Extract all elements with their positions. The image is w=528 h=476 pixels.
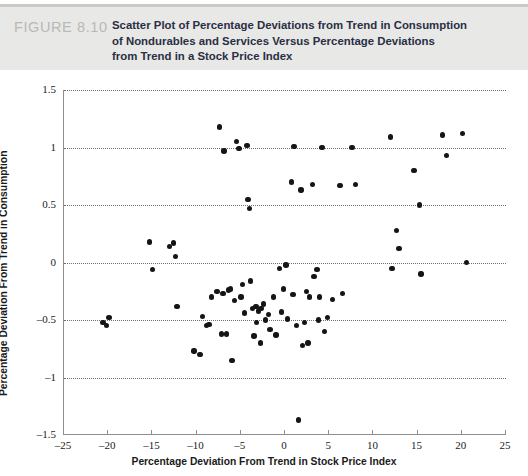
scatter-point xyxy=(340,291,345,296)
scatter-point xyxy=(261,301,266,306)
x-tick-label: 10 xyxy=(357,439,387,451)
x-tick-label: –20 xyxy=(92,439,122,451)
scatter-point xyxy=(236,146,241,151)
scatter-point xyxy=(258,340,263,345)
scatter-point xyxy=(305,340,310,345)
x-tick-mark xyxy=(505,430,506,435)
scatter-point xyxy=(337,183,342,188)
x-axis-title: Percentage Deviation From Trend in Stock… xyxy=(0,456,528,467)
gridline-y xyxy=(64,148,506,149)
y-tick-label: –0.5 xyxy=(0,313,56,325)
scatter-point xyxy=(150,267,155,272)
scatter-point xyxy=(349,145,354,150)
gridline-y xyxy=(64,205,506,206)
scatter-point xyxy=(191,348,196,353)
x-tick-mark xyxy=(372,430,373,435)
y-tick-label: 1 xyxy=(0,141,56,153)
x-tick-label: 15 xyxy=(402,439,432,451)
scatter-point xyxy=(464,260,469,265)
y-tick-label: 1.5 xyxy=(0,83,56,95)
x-tick-mark xyxy=(284,430,285,435)
x-tick-mark xyxy=(240,430,241,435)
scatter-point xyxy=(271,294,276,299)
x-tick-label: 0 xyxy=(269,439,299,451)
scatter-point xyxy=(281,286,286,291)
scatter-point xyxy=(232,298,237,303)
scatter-point xyxy=(296,417,301,422)
scatter-point xyxy=(104,323,109,328)
y-axis-title: Percentage Deviation From Trend in Consu… xyxy=(0,151,9,396)
scatter-point xyxy=(307,294,312,299)
scatter-point xyxy=(394,228,399,233)
scatter-point xyxy=(277,266,282,271)
scatter-point xyxy=(302,320,307,325)
scatter-point xyxy=(411,168,416,173)
scatter-point xyxy=(258,306,263,311)
scatter-chart: Percentage Deviation From Trend in Consu… xyxy=(0,74,528,476)
scatter-point xyxy=(267,327,272,332)
scatter-point xyxy=(220,291,225,296)
scatter-point xyxy=(353,182,358,187)
scatter-point xyxy=(319,145,324,150)
plot-frame xyxy=(63,90,505,435)
figure-caption-line-3: from Trend in a Stock Price Index xyxy=(112,49,517,65)
scatter-point xyxy=(266,312,271,317)
scatter-point xyxy=(224,331,229,336)
scatter-point xyxy=(389,266,394,271)
scatter-point xyxy=(273,332,278,337)
figure-header-band: FIGURE 8.10 Scatter Plot of Percentage D… xyxy=(0,4,528,70)
scatter-point xyxy=(314,267,319,272)
scatter-point xyxy=(217,124,222,129)
y-tick-label: 0 xyxy=(0,256,56,268)
scatter-point xyxy=(283,262,288,267)
scatter-point xyxy=(289,179,294,184)
scatter-point xyxy=(304,289,309,294)
scatter-point xyxy=(244,143,249,148)
scatter-point xyxy=(238,294,243,299)
x-tick-mark xyxy=(63,430,64,435)
scatter-point xyxy=(173,254,178,259)
scatter-point xyxy=(254,320,259,325)
x-tick-mark xyxy=(417,430,418,435)
figure-number-label: FIGURE 8.10 xyxy=(14,19,108,35)
scatter-point xyxy=(417,202,422,207)
scatter-point xyxy=(316,317,321,322)
figure-caption: Scatter Plot of Percentage Deviations fr… xyxy=(112,18,517,65)
scatter-point xyxy=(147,239,152,244)
scatter-point xyxy=(294,323,299,328)
scatter-point xyxy=(214,289,219,294)
x-tick-label: –25 xyxy=(48,439,78,451)
scatter-point xyxy=(247,206,252,211)
scatter-point xyxy=(388,134,393,139)
scatter-point xyxy=(242,310,247,315)
scatter-point xyxy=(290,292,295,297)
scatter-point xyxy=(396,246,401,251)
x-tick-label: 20 xyxy=(446,439,476,451)
scatter-point xyxy=(240,282,245,287)
scatter-point xyxy=(444,153,449,158)
x-tick-mark xyxy=(151,430,152,435)
x-tick-label: –15 xyxy=(136,439,166,451)
scatter-point xyxy=(330,297,335,302)
scatter-point xyxy=(317,294,322,299)
scatter-point xyxy=(234,139,239,144)
figure-caption-line-1: Scatter Plot of Percentage Deviations fr… xyxy=(112,18,517,34)
figure-caption-line-2: of Nondurables and Services Versus Perce… xyxy=(112,34,517,50)
y-tick-label: 0.5 xyxy=(0,198,56,210)
scatter-point xyxy=(251,333,256,338)
x-tick-label: –10 xyxy=(181,439,211,451)
scatter-point xyxy=(279,309,284,314)
x-tick-label: –5 xyxy=(225,439,255,451)
gridline-y xyxy=(64,378,506,379)
scatter-point xyxy=(263,317,268,322)
x-tick-mark xyxy=(461,430,462,435)
y-tick-label: –1 xyxy=(0,371,56,383)
scatter-point xyxy=(298,187,303,192)
scatter-point xyxy=(460,131,465,136)
scatter-point xyxy=(228,286,233,291)
scatter-point xyxy=(285,316,290,321)
x-tick-mark xyxy=(328,430,329,435)
scatter-point xyxy=(197,352,202,357)
scatter-point xyxy=(418,271,423,276)
scatter-point xyxy=(322,329,327,334)
